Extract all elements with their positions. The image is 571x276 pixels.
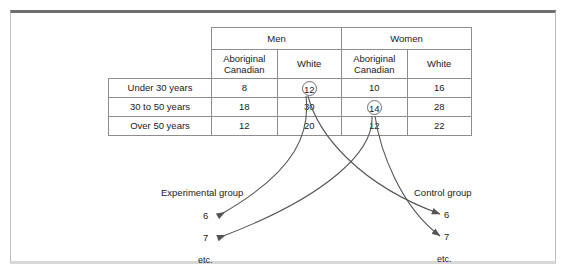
cell-over50-women-aboriginal: 12 (341, 117, 407, 136)
cell-under30-men-aboriginal: 8 (212, 79, 278, 98)
sub-header-men-aboriginal: Aboriginal Canadian (212, 50, 278, 79)
sub-header-line-1: Aboriginal (342, 53, 407, 64)
cell-over50-men-white: 20 (277, 117, 341, 136)
cell-30to50-men-white: 30 (277, 98, 341, 117)
experimental-value-6: 6 (203, 210, 208, 221)
row-label-under-30: Under 30 years (109, 79, 212, 98)
control-value-7: 7 (444, 231, 449, 242)
experimental-etc-label: etc. (198, 255, 213, 265)
cell-under30-women-white: 16 (407, 79, 471, 98)
cell-over50-women-white: 22 (407, 117, 471, 136)
cell-over50-men-aboriginal: 12 (212, 117, 278, 136)
control-value-6: 6 (444, 209, 449, 220)
cell-under30-men-white: 12 (277, 79, 341, 98)
cell-30to50-men-aboriginal: 18 (212, 98, 278, 117)
figure-frame: Men Women Aboriginal Canadian White Abor… (10, 10, 556, 264)
group-header-men: Men (212, 28, 342, 50)
table-corner-cell-2 (109, 50, 212, 79)
sub-header-women-white: White (407, 50, 471, 79)
group-header-women: Women (341, 28, 471, 50)
table-row-sub-header: Aboriginal Canadian White Aboriginal Can… (109, 50, 472, 79)
sub-header-line-1: Aboriginal (212, 53, 277, 64)
experimental-value-7: 7 (203, 232, 208, 243)
table-row: Under 30 years 8 12 10 16 (109, 79, 472, 98)
control-etc-label: etc. (437, 254, 452, 264)
sub-header-men-white: White (277, 50, 341, 79)
row-label-30-to-50: 30 to 50 years (109, 98, 212, 117)
cell-30to50-women-aboriginal: 14 (341, 98, 407, 117)
sub-header-line-2: Canadian (342, 64, 407, 75)
sub-header-line-2: Canadian (212, 64, 277, 75)
circled-value-12: 12 (302, 81, 317, 96)
control-group-label: Control group (414, 187, 472, 198)
cell-30to50-women-white: 28 (407, 98, 471, 117)
table-row: Over 50 years 12 20 12 22 (109, 117, 472, 136)
row-label-over-50: Over 50 years (109, 117, 212, 136)
table-row: 30 to 50 years 18 30 14 28 (109, 98, 472, 117)
cross-tabulation-table: Men Women Aboriginal Canadian White Abor… (108, 27, 472, 136)
circled-value-14: 14 (367, 100, 382, 115)
table-corner-cell (109, 28, 212, 50)
experimental-group-label: Experimental group (161, 187, 243, 198)
sub-header-women-aboriginal: Aboriginal Canadian (341, 50, 407, 79)
cell-under30-women-aboriginal: 10 (341, 79, 407, 98)
table-row-group-header: Men Women (109, 28, 472, 50)
